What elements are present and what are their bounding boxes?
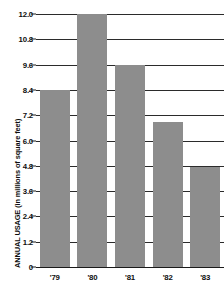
bar: [115, 65, 145, 267]
bar: [40, 90, 70, 267]
y-axis-title-wrap: ANNUAL USAGE (in millions of square feet…: [0, 0, 16, 272]
x-axis-tick-label: '83: [186, 273, 224, 282]
bar-chart: ANNUAL USAGE (in millions of square feet…: [0, 0, 224, 293]
x-axis-tick-labels: '79'80'81'82'83: [36, 270, 224, 290]
x-axis-tick-label: '82: [149, 273, 187, 282]
bar-slot: [40, 14, 70, 267]
x-axis-tick-label: '81: [111, 273, 149, 282]
bar: [77, 14, 107, 267]
y-axis-tick-labels: 12.010.89.68.47.26.04.83.62.41.20: [16, 0, 36, 272]
bar: [153, 122, 183, 267]
bar-series: [36, 14, 224, 267]
plot-area: [36, 14, 224, 267]
bar-slot: [153, 14, 183, 267]
bar-slot: [190, 14, 220, 267]
bar-slot: [77, 14, 107, 267]
bar: [190, 167, 220, 267]
x-axis-tick-label: '79: [36, 273, 74, 282]
x-axis-tick-label: '80: [74, 273, 112, 282]
bar-slot: [115, 14, 145, 267]
axis-baseline: [36, 267, 224, 268]
